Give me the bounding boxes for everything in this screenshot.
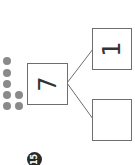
part-box-bottom[interactable] [92, 99, 132, 141]
part-bottom-number [92, 101, 132, 139]
problem-number-badge: 15 [27, 152, 42, 165]
part-top-number: 1 [92, 30, 132, 68]
whole-number: 7 [28, 65, 68, 104]
part-box-top[interactable]: 1 [92, 28, 132, 70]
whole-box: 7 [27, 63, 68, 105]
